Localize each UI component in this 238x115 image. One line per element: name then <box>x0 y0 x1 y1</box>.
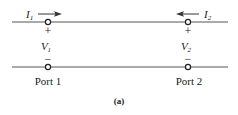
current-label-2: I2 <box>203 8 212 22</box>
current-label-1: I1 <box>25 8 33 22</box>
port2-plus: + <box>185 24 192 38</box>
figure-caption: (a) <box>114 96 125 106</box>
port1-minus: − <box>45 52 52 66</box>
arrow-right-icon <box>38 11 62 16</box>
port2-minus: − <box>185 52 192 66</box>
port1-plus: + <box>45 24 52 38</box>
port1-label: Port 1 <box>35 75 62 87</box>
arrow-left-icon <box>176 11 199 16</box>
port2-label: Port 2 <box>176 75 203 87</box>
two-port-diagram: I1 I2 + V1 − + V2 − Port 1 Port 2 (a) <box>0 0 238 115</box>
